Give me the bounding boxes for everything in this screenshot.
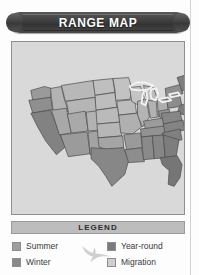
range-map-panel [11,41,185,215]
title-banner-inner: RANGE MAP [23,14,173,31]
state-utah [67,111,88,133]
state-florida [160,156,182,187]
legend-column-left: Summer Winter [12,238,90,270]
page-canvas: RANGE MAP [0,0,199,275]
bird-silhouette-icon [80,243,114,265]
page-title: RANGE MAP [59,16,138,30]
legend-header-bar: LEGEND [11,221,185,234]
legend-label-winter: Winter [26,257,51,267]
legend-item-summer: Summer [12,238,90,254]
legend-label-year-round: Year-round [121,241,163,251]
us-range-map [12,42,184,214]
state-louisiana [125,148,145,163]
legend-title: LEGEND [78,223,117,232]
legend-swatch-winter [12,258,21,267]
state-nebraska [96,107,120,124]
state-arkansas [124,133,143,150]
legend-item-year-round: Year-round [107,238,185,254]
legend-column-right: Year-round Migration [107,238,185,270]
legend-label-summer: Summer [26,241,58,251]
page-divider-rule [190,0,191,275]
map-states-group [29,75,184,187]
legend-label-migration: Migration [121,257,156,267]
state-kansas [97,122,122,138]
title-banner-plate: RANGE MAP [9,12,187,33]
state-texas [91,148,129,187]
state-arizona [60,132,90,157]
legend-swatch-summer [12,242,21,251]
title-banner: RANGE MAP [9,12,187,33]
legend-item-winter: Winter [12,254,90,270]
legend-item-migration: Migration [107,254,185,270]
